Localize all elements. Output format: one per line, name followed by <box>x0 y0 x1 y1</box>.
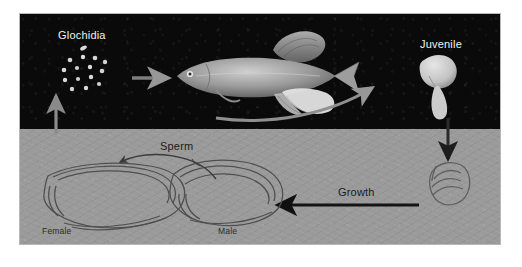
dark-panel-graphics <box>20 14 500 244</box>
male-adult-mussel <box>170 159 283 226</box>
glochidia-cluster <box>62 45 108 92</box>
life-cycle-figure: Glochidia Juvenile Sperm Growth Female M… <box>20 14 500 244</box>
arrow-sperm <box>120 155 216 179</box>
growing-mussel <box>430 163 470 205</box>
juvenile-mussel <box>420 55 457 119</box>
figure-canvas: Glochidia Juvenile Sperm Growth Female M… <box>0 0 522 267</box>
host-fish <box>177 31 359 116</box>
female-adult-mussel <box>44 163 185 230</box>
